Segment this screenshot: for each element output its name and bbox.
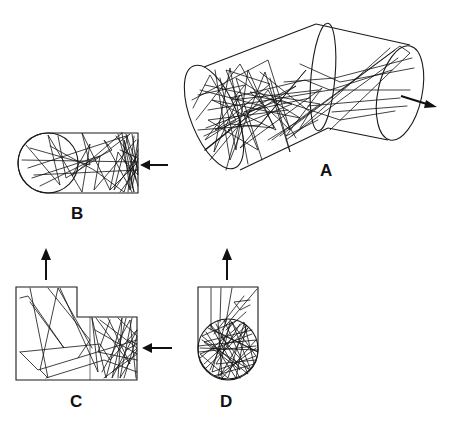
panel-a-top-edge-1 <box>204 24 316 67</box>
panel-a-cylinder: A <box>172 22 437 180</box>
panel-d-exit-arrow <box>222 248 232 280</box>
panel-a-rays <box>192 46 414 170</box>
panel-d-label: D <box>220 392 232 411</box>
panel-b-label: B <box>71 204 83 223</box>
panel-b-rays <box>22 133 138 192</box>
panel-a-joint-ellipse <box>306 22 339 132</box>
panel-a-bottom-edge-2 <box>328 128 388 140</box>
panel-a-label: A <box>320 161 332 180</box>
panel-b-cavity: B <box>18 133 168 223</box>
panel-b-entry-arrow <box>140 160 168 170</box>
panel-b-circle <box>18 133 78 193</box>
panel-c-exit-arrow <box>41 248 51 280</box>
panel-a-bottom-edge-1 <box>240 128 328 170</box>
panel-a-top-edge-2 <box>316 24 410 45</box>
panel-c-cavity: C <box>16 248 172 411</box>
ray-trace-diagram: A B <box>0 0 454 422</box>
panel-a-right-end-ellipse <box>369 41 432 144</box>
panel-c-entry-arrow <box>142 343 172 353</box>
panel-c-label: C <box>70 392 82 411</box>
panel-c-rays <box>20 288 137 378</box>
panel-d-cavity: D <box>198 248 258 411</box>
panel-d-rays <box>198 288 258 378</box>
